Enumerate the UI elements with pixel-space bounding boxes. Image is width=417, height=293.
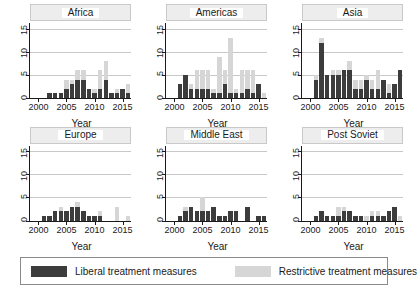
bar-column: [189, 207, 193, 221]
x-tick-label: 2015: [385, 226, 405, 235]
y-tick-label: 5: [156, 71, 165, 76]
bar-column: [98, 70, 102, 98]
bar-column: [228, 38, 232, 98]
x-tick-label: 2015: [113, 226, 133, 235]
bar-series: [166, 23, 267, 99]
bar-series: [30, 23, 131, 99]
bar-segment-restrictive: [75, 70, 79, 79]
bar-segment-restrictive: [387, 84, 391, 93]
bar-segment-liberal: [234, 211, 238, 220]
bar-column: [342, 70, 346, 98]
bar-column: [64, 211, 68, 220]
x-tick-group: 2000200520102015: [166, 99, 267, 119]
bar-segment-restrictive: [359, 80, 363, 89]
bar-column: [200, 70, 204, 98]
panel-strip: Post Soviet: [302, 127, 403, 144]
bar-segment-liberal: [75, 207, 79, 221]
bar-segment-liberal: [195, 211, 199, 220]
bar-segment-liberal: [387, 211, 391, 220]
bar-segment-liberal: [256, 84, 260, 98]
bar-segment-liberal: [59, 211, 63, 220]
bar-column: [75, 70, 79, 98]
bar-column: [189, 84, 193, 98]
x-tick-label: 2010: [221, 226, 241, 235]
bar-segment-restrictive: [245, 70, 249, 88]
panel-title: Americas: [190, 8, 244, 18]
panel-title: Asia: [337, 8, 368, 18]
plot-area: 0510152000200520102015: [166, 23, 267, 99]
x-tick-label: 2005: [192, 226, 212, 235]
bar-segment-liberal: [183, 75, 187, 98]
bar-segment-liberal: [331, 75, 335, 98]
plot-area: 0510152000200520102015: [166, 146, 267, 222]
bar-segment-liberal: [81, 80, 85, 98]
y-tick-label: 15: [156, 25, 165, 35]
bar-segment-liberal: [53, 211, 57, 220]
y-axis-line: [29, 146, 30, 222]
y-tick-label: 5: [20, 194, 29, 199]
bar-segment-liberal: [376, 89, 380, 98]
panel-title: Africa: [62, 8, 100, 18]
bar-column: [104, 61, 108, 98]
bar-column: [387, 84, 391, 98]
y-tick-label: 15: [20, 148, 29, 158]
bar-segment-restrictive: [115, 207, 119, 221]
bar-column: [211, 89, 215, 98]
panel-americas: Americas0510152000200520102015Year: [136, 2, 272, 125]
y-axis: 051015: [272, 23, 302, 99]
bar-series: [302, 23, 403, 99]
bar-segment-liberal: [206, 89, 210, 98]
bar-segment-liberal: [353, 89, 357, 98]
y-tick-label: 5: [20, 71, 29, 76]
bar-column: [398, 70, 402, 98]
bar-column: [336, 207, 340, 221]
chart-legend: Liberal treatment measures Restrictive t…: [20, 257, 388, 285]
bar-segment-liberal: [342, 211, 346, 220]
bar-column: [319, 38, 323, 98]
bar-segment-liberal: [359, 89, 363, 98]
y-axis: 051015: [0, 146, 30, 222]
x-axis-title: Year: [30, 242, 133, 252]
bar-segment-liberal: [245, 207, 249, 221]
bar-series: [302, 146, 403, 222]
y-tick-label: 15: [20, 25, 29, 35]
y-axis: 051015: [136, 23, 166, 99]
y-tick-label: 5: [292, 194, 301, 199]
bar-column: [245, 70, 249, 98]
legend-label-restrictive: Restrictive treatment measures: [279, 266, 417, 277]
x-tick-label: 2015: [385, 103, 405, 112]
bar-series: [30, 146, 131, 222]
bar-column: [353, 80, 357, 98]
bar-segment-restrictive: [64, 80, 68, 89]
bar-column: [195, 70, 199, 98]
bar-segment-liberal: [200, 89, 204, 98]
y-tick-label: 5: [292, 71, 301, 76]
bar-segment-liberal: [75, 80, 79, 98]
x-tick-label: 2015: [113, 103, 133, 112]
bar-column: [126, 84, 130, 98]
bar-column: [64, 80, 68, 98]
bar-segment-restrictive: [217, 57, 221, 94]
bar-segment-liberal: [98, 89, 102, 98]
bar-segment-restrictive: [195, 70, 199, 88]
bar-column: [251, 70, 255, 98]
bar-column: [183, 207, 187, 221]
bar-segment-liberal: [364, 80, 368, 98]
bar-column: [319, 211, 323, 220]
x-tick-label: 2000: [164, 103, 184, 112]
bar-column: [376, 70, 380, 98]
bar-segment-liberal: [178, 84, 182, 98]
x-tick-label: 2010: [85, 226, 105, 235]
y-tick-label: 5: [156, 194, 165, 199]
x-tick-label: 2010: [357, 103, 377, 112]
panel-title: Europe: [58, 130, 102, 140]
bar-column: [211, 207, 215, 221]
y-tick-label: 10: [20, 48, 29, 58]
bar-segment-liberal: [228, 211, 232, 220]
x-tick-label: 2000: [28, 226, 48, 235]
bar-column: [314, 75, 318, 98]
bar-column: [240, 70, 244, 98]
bar-column: [206, 211, 210, 220]
bar-segment-restrictive: [376, 70, 380, 88]
bar-segment-liberal: [336, 75, 340, 98]
